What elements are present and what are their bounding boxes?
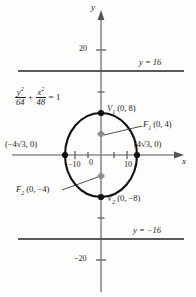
x-tick-label-minus-10: −10 — [68, 161, 81, 169]
label-covertex-left: (−4√3, 0) — [5, 140, 37, 149]
label-covertex-right: (4√3, 0) — [134, 140, 161, 149]
y-tick-label-20: 20 — [79, 45, 87, 53]
focus-bottom-coords: (0, −4) — [26, 184, 49, 194]
equation-denominator-1: 64 — [15, 97, 26, 107]
x-axis-label: x — [182, 157, 186, 166]
point-covertex-right — [134, 152, 140, 158]
label-focus-bottom: F2(0, −4) — [16, 185, 49, 194]
equation-numerator-1-exponent: 2 — [21, 86, 24, 92]
label-focus-top: F1(0, 4) — [143, 120, 172, 129]
focus-top-subscript: 1 — [148, 125, 151, 131]
equation-numerator-2-exponent: 2 — [41, 86, 44, 92]
ellipse-equation: y2 64 + x2 48 = 1 — [14, 88, 62, 106]
equation-denominator-2: 48 — [36, 97, 47, 107]
point-focus-bottom — [98, 173, 104, 179]
point-vertex-bottom — [98, 194, 104, 200]
focus-top-leader — [104, 126, 142, 135]
origin-label: 0 — [89, 159, 93, 167]
equation-fraction-1: y2 64 — [15, 88, 26, 106]
ellipse-figure: y x 0 20 −20 −10 10 y = 16 y = −16 V1(0,… — [0, 0, 196, 297]
focus-top-coords: (0, 4) — [153, 119, 171, 129]
y-tick-label-minus-20: −20 — [74, 255, 87, 263]
label-vertex-top: V1(0, 8) — [107, 104, 136, 113]
focus-bottom-subscript: 2 — [21, 190, 24, 196]
label-y-equals-16: y = 16 — [139, 58, 161, 67]
equation-plus-sign: + — [28, 92, 33, 102]
equation-numerator-2: x2 — [36, 88, 45, 97]
point-vertex-top — [98, 110, 104, 116]
y-axis-label: y — [91, 3, 95, 12]
label-y-equals-minus-16: y = −16 — [133, 226, 161, 235]
x-tick-label-10: 10 — [124, 161, 132, 169]
point-covertex-left — [62, 152, 68, 158]
y-axis-arrowhead — [98, 10, 105, 20]
vertex-bottom-coords: (0, −8) — [117, 193, 140, 203]
vertex-top-coords: (0, 8) — [117, 103, 135, 113]
equation-fraction-2: x2 48 — [36, 88, 47, 106]
equation-numerator-1: y2 — [16, 88, 25, 97]
label-vertex-bottom: V2(0, −8) — [107, 194, 140, 203]
equation-equals-one: = 1 — [49, 92, 61, 102]
point-focus-top — [98, 131, 104, 137]
vertex-bottom-subscript: 2 — [112, 199, 115, 205]
vertex-top-subscript: 1 — [112, 109, 115, 115]
